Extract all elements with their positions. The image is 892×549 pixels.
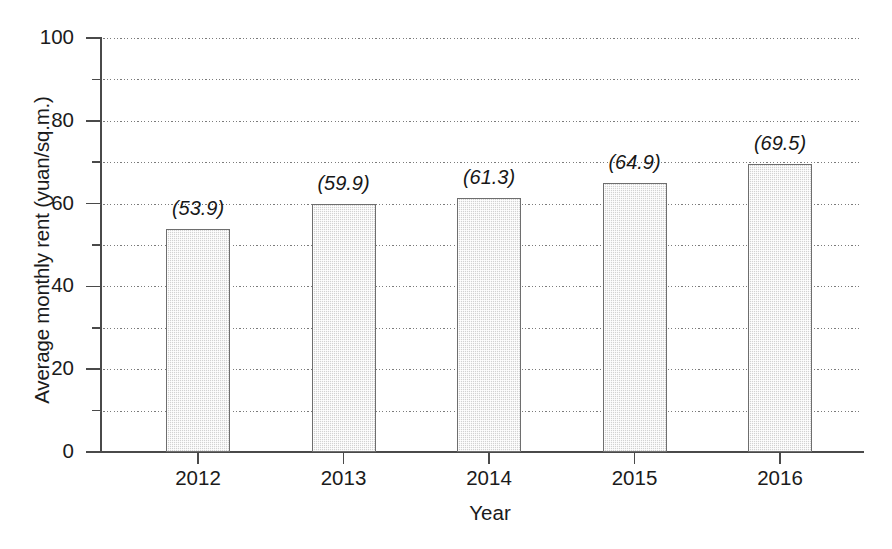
bar-value-label: (69.5) [715,132,845,155]
x-tick [488,453,490,464]
y-tick-label: 100 [20,25,74,49]
x-tick [197,453,199,464]
bar-value-label: (64.9) [570,151,700,174]
bar-2016[interactable] [748,164,812,452]
y-tick-minor [92,161,101,163]
bar-value-label: (61.3) [424,166,554,189]
bar-2013[interactable] [312,204,376,452]
y-axis-title: Average monthly rent (yuan/sq.m.) [30,40,54,460]
y-tick-major [86,286,101,288]
gridline [100,79,862,80]
x-tick-label-2015: 2015 [580,466,690,490]
y-tick-label: 20 [20,356,74,380]
x-tick [634,453,636,464]
x-tick-label-2014: 2014 [434,466,544,490]
bar-2012[interactable] [166,229,230,452]
y-tick-label: 40 [20,273,74,297]
x-tick [343,453,345,464]
y-tick-minor [92,244,101,246]
bar-value-label: (59.9) [279,172,409,195]
y-tick-label: 0 [20,439,74,463]
x-axis-title: Year [400,501,580,525]
bar-chart: Average monthly rent (yuan/sq.m.) (53.9)… [0,0,892,549]
plot-area: (53.9)(59.9)(61.3)(64.9)(69.5) [100,38,862,452]
bar-value-label: (53.9) [133,197,263,220]
y-tick-minor [92,327,101,329]
y-tick-major [86,451,101,453]
bar-2014[interactable] [457,198,521,452]
y-tick-label: 80 [20,108,74,132]
y-tick-major [86,120,101,122]
y-tick-minor [92,410,101,412]
y-tick-label: 60 [20,191,74,215]
x-tick-label-2016: 2016 [725,466,835,490]
y-tick-major [86,368,101,370]
x-tick [779,453,781,464]
y-tick-major [86,203,101,205]
gridline [100,38,862,39]
gridline [100,121,862,122]
y-tick-major [86,37,101,39]
x-tick-label-2013: 2013 [289,466,399,490]
gridline [100,162,862,163]
x-tick-label-2012: 2012 [143,466,253,490]
bar-2015[interactable] [603,183,667,452]
y-tick-minor [92,79,101,81]
